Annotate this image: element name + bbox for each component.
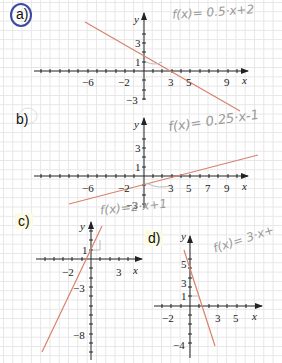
svg-text:9: 9	[224, 182, 230, 194]
svg-text:y: y	[79, 220, 85, 232]
graph-b: −6−2 3579 x y 31−3	[34, 118, 258, 211]
svg-text:5: 5	[186, 182, 192, 194]
svg-text:1: 1	[82, 244, 88, 256]
svg-text:−2: −2	[118, 182, 130, 194]
svg-text:3: 3	[168, 76, 174, 88]
svg-text:−8: −8	[73, 329, 85, 341]
label-d: d)	[145, 230, 163, 246]
svg-text:−6: −6	[82, 182, 94, 194]
graph-a: −6−2 359 x y 31−3	[34, 13, 248, 111]
graphs-canvas: −6−2 359 x y 31−3 −6−2 3579 x y	[0, 0, 282, 363]
svg-text:y: y	[133, 118, 139, 130]
svg-text:−3: −3	[73, 282, 85, 294]
label-a: a)	[13, 6, 31, 22]
svg-text:3: 3	[168, 182, 174, 194]
svg-text:3: 3	[116, 266, 122, 278]
graph-d: −235 x y 531−4	[154, 230, 262, 358]
svg-text:1: 1	[135, 161, 141, 173]
svg-text:5: 5	[186, 76, 192, 88]
svg-text:x: x	[241, 74, 247, 86]
svg-text:3: 3	[135, 142, 141, 154]
svg-text:−2: −2	[118, 76, 130, 88]
svg-text:−6: −6	[82, 76, 94, 88]
svg-text:y: y	[180, 230, 186, 242]
svg-text:9: 9	[224, 76, 230, 88]
svg-text:3: 3	[135, 37, 141, 49]
svg-text:5: 5	[181, 258, 187, 270]
svg-text:1: 1	[181, 290, 187, 302]
svg-text:x: x	[251, 310, 257, 322]
svg-text:1: 1	[135, 56, 141, 68]
label-c: c)	[15, 213, 33, 229]
graph-c: −23 x y 1−3−8	[36, 220, 142, 360]
svg-text:5: 5	[233, 312, 239, 324]
svg-text:y: y	[133, 13, 139, 25]
svg-text:3: 3	[215, 312, 221, 324]
svg-text:x: x	[132, 264, 138, 276]
svg-text:−2: −2	[162, 312, 174, 324]
svg-text:−4: −4	[173, 339, 185, 351]
svg-text:−2: −2	[62, 266, 74, 278]
svg-text:7: 7	[205, 182, 211, 194]
label-b: b)	[13, 111, 31, 127]
svg-text:3: 3	[181, 277, 187, 289]
svg-text:x: x	[241, 180, 247, 192]
svg-text:−3: −3	[126, 94, 138, 106]
